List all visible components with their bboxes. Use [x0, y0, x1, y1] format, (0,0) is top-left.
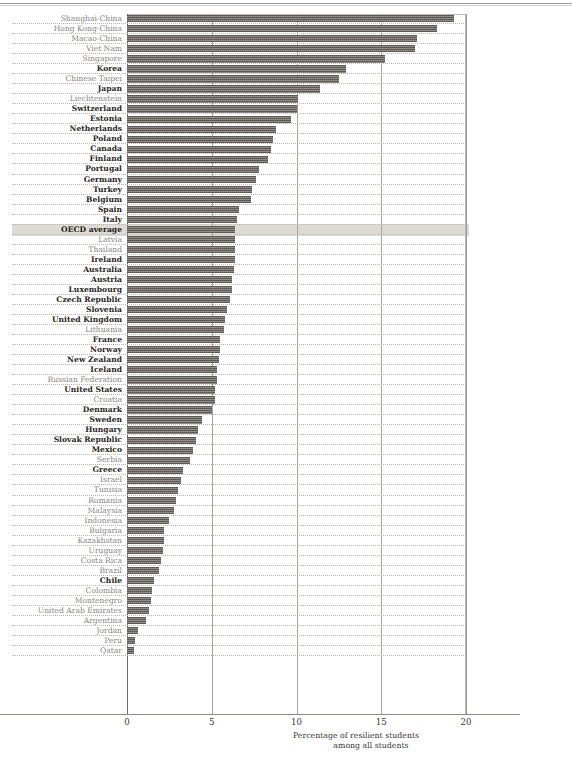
bar-track	[127, 164, 466, 174]
bar-track	[127, 84, 466, 94]
category-label: United States	[0, 385, 127, 395]
bar-track	[127, 576, 466, 586]
chart-row: Greece	[0, 465, 466, 475]
chart-row: France	[0, 335, 466, 345]
bar-track	[127, 415, 466, 425]
chart-row: Korea	[0, 64, 466, 74]
chart-row: Costa Rica	[0, 556, 466, 566]
category-label: Japan	[0, 84, 127, 94]
category-label: Sweden	[0, 415, 127, 425]
category-label: Germany	[0, 175, 127, 185]
bar	[127, 416, 202, 423]
category-label: Czech Republic	[0, 295, 127, 305]
bar-track	[127, 295, 466, 305]
bar	[127, 316, 225, 323]
category-label: Luxembourg	[0, 285, 127, 295]
chart-row: Serbia	[0, 455, 466, 465]
bar-track	[127, 124, 466, 134]
bar-track	[127, 636, 466, 646]
chart-row: Belgium	[0, 195, 466, 205]
cut-off-caption	[0, 758, 572, 766]
bar-track	[127, 626, 466, 636]
bar	[127, 55, 385, 62]
bar	[127, 346, 220, 353]
bar	[127, 236, 235, 243]
chart-row: Canada	[0, 144, 466, 154]
bar	[127, 306, 227, 313]
x-axis-title-line2: among all students	[206, 741, 506, 751]
category-label: Romania	[0, 496, 127, 506]
axis-tick-label: 15	[376, 717, 387, 727]
axis-tick-label: 20	[461, 717, 472, 727]
category-label: Costa Rica	[0, 556, 127, 566]
chart-row: Kazakhstan	[0, 536, 466, 546]
category-label: Qatar	[0, 646, 127, 656]
bar	[127, 386, 215, 393]
bar	[127, 607, 149, 614]
axis-tick	[381, 708, 382, 714]
category-label: Finland	[0, 154, 127, 164]
category-label: Canada	[0, 144, 127, 154]
bar	[127, 637, 135, 644]
bar	[127, 647, 134, 654]
chart-row: Finland	[0, 154, 466, 164]
category-label: Israel	[0, 475, 127, 485]
axis-tick	[212, 708, 213, 714]
bar-track	[127, 275, 466, 285]
category-label: Italy	[0, 215, 127, 225]
bar-track	[127, 395, 466, 405]
category-label: Serbia	[0, 455, 127, 465]
chart-row: United Kingdom	[0, 315, 466, 325]
chart-row: Bulgaria	[0, 526, 466, 536]
chart-row: Jordan	[0, 626, 466, 636]
bar-track	[127, 455, 466, 465]
bar-track	[127, 556, 466, 566]
bar	[127, 467, 183, 474]
chart-row: Romania	[0, 496, 466, 506]
category-label: Indonesia	[0, 516, 127, 526]
chart-row: OECD average	[0, 225, 466, 235]
category-label: Malaysia	[0, 506, 127, 516]
chart-row: Malaysia	[0, 506, 466, 516]
chart-row: Hong Kong-China	[0, 24, 466, 34]
chart-row: Lithuania	[0, 325, 466, 335]
bar-track	[127, 154, 466, 164]
bar	[127, 517, 169, 524]
bar-track	[127, 74, 466, 84]
bar	[127, 126, 276, 133]
bar	[127, 447, 193, 454]
bar	[127, 426, 198, 433]
category-label: Argentina	[0, 616, 127, 626]
chart-row: Austria	[0, 275, 466, 285]
bar-track	[127, 315, 466, 325]
chart-row: Poland	[0, 134, 466, 144]
bar-track	[127, 425, 466, 435]
bar-track	[127, 596, 466, 606]
category-label: Australia	[0, 265, 127, 275]
bar	[127, 105, 297, 112]
bar	[127, 45, 415, 52]
category-label: Tunisia	[0, 485, 127, 495]
chart-row: Israel	[0, 475, 466, 485]
bar-track	[127, 225, 466, 235]
chart-row: Germany	[0, 175, 466, 185]
bar	[127, 487, 178, 494]
bar	[127, 196, 251, 203]
category-label: Viet Nam	[0, 44, 127, 54]
chart-page: Shanghai-ChinaHong Kong-ChinaMacao-China…	[0, 0, 572, 766]
category-label: United Arab Emirates	[0, 606, 127, 616]
category-label: Greece	[0, 465, 127, 475]
category-label: Estonia	[0, 114, 127, 124]
bar	[127, 85, 320, 92]
bar	[127, 296, 230, 303]
bar-track	[127, 526, 466, 536]
bar-track	[127, 255, 466, 265]
category-label: Hong Kong-China	[0, 24, 127, 34]
chart-row: Estonia	[0, 114, 466, 124]
bar	[127, 35, 417, 42]
bar	[127, 567, 159, 574]
category-label: Macao-China	[0, 34, 127, 44]
chart-row: Netherlands	[0, 124, 466, 134]
category-label: Spain	[0, 205, 127, 215]
chart-row: Slovenia	[0, 305, 466, 315]
